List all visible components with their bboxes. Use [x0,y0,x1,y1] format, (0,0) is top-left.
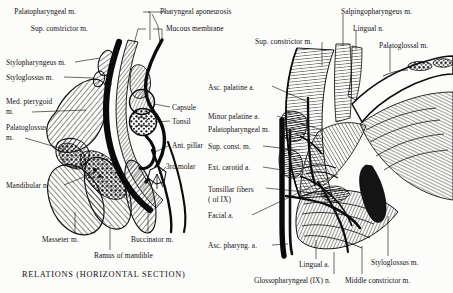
label-sup-constrictor-m-r: Sup. constrictor m. [255,38,312,47]
label-stylopharyngeus-m: Stylopharyngeus m. [6,59,66,68]
label-styloglossus-m-r: Styloglossus m. [371,259,419,268]
leader-palatopharyngeal-m [143,12,150,40]
label-capsule: Capsule [172,104,196,113]
label-masseter-m: Masseter m. [42,236,79,245]
leader-styloglossus-m [64,77,94,78]
label-buccinator-m: Buccinator m. [131,236,174,245]
tonsil-shape [130,109,157,136]
leader-capsule [154,104,170,107]
label-mandibular-n: Mandibular n. [6,182,49,191]
label-facial-a: Facial a. [208,212,233,221]
salpingopharyngeus-shape [335,44,352,122]
label-palatopharyngeal-m-r: Palatopharyngeal m. [208,126,270,135]
caption-relations-horizontal-section: RELATIONS (HORIZONTAL SECTION) [22,270,185,279]
label-pharyngeal-aponeurosis: Pharyngeal aponeurosis [160,8,232,17]
label-asc-pharyng-a: Asc. pharyng. a. [208,242,257,251]
left-diagram-art [47,40,186,235]
label-asc-palatine-a: Asc. palatine a. [208,84,254,93]
label-tonsil: Tonsil [172,118,191,127]
label-ant-pillar: Ant. pillar [172,142,203,151]
leader-stylopharyngeus-m [75,58,100,62]
label-palatoglossal-m: Palatoglossal m. [379,42,428,51]
label-third-molar: 3rd molar [166,163,195,172]
label-palatoglossus-m-l2: m. [6,134,14,143]
label-glossopharyngeal-ix-n: Glossopharyngeal (IX) n. [254,277,331,286]
label-ext-carotid-a: Ext. carotid a. [208,164,250,173]
right-diagram-art [279,44,453,256]
label-med-pterygoid-m-l1: Med. pterygoid [6,98,52,107]
label-sup-const-m: Sup. const. m. [208,143,251,152]
label-tonsillar-fibers-l1: Tonsillar fibers [208,186,254,195]
label-mucous-membrane: Mucous membrane [166,25,224,34]
label-sup-constrictor-m: Sup. constrictor m. [31,25,88,34]
mandibular-n-bundle [98,174,101,177]
label-lingual-a: Lingual a. [299,261,329,270]
label-salpingopharyngeus-m: Salpingopharyngeus m. [341,8,412,17]
label-lingual-n: Lingual n. [353,25,384,34]
label-styloglossus-m: Styloglossus m. [6,74,54,83]
label-ramus-of-mandible: Ramus of mandible [94,252,153,261]
label-palatopharyngeal-m: Palatopharyngeal m. [14,8,76,17]
label-palatoglossus-m-l1: Palatoglossus [6,124,47,133]
ext-carotid-a-shape [282,120,284,256]
mandibular-n-bundle [93,168,97,172]
tonsil-bed-dark-patch [281,111,307,141]
leader-ext-carotid-a [263,167,282,170]
anatomical-plate: Palatopharyngeal m.Pharyngeal aponeurosi… [0,0,453,293]
label-minor-palatine-a: Minor palatine a. [208,113,260,122]
label-middle-constrictor-m: Middle constrictor m. [345,277,410,286]
label-med-pterygoid-m-l2: m. [6,108,14,117]
label-tonsillar-fibers-l2: ( of IX) [208,196,231,205]
